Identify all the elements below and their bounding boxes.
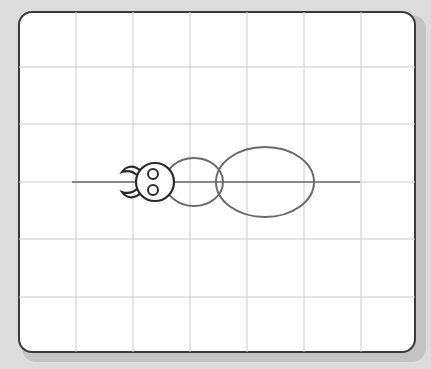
- sketch-canvas: [0, 0, 431, 369]
